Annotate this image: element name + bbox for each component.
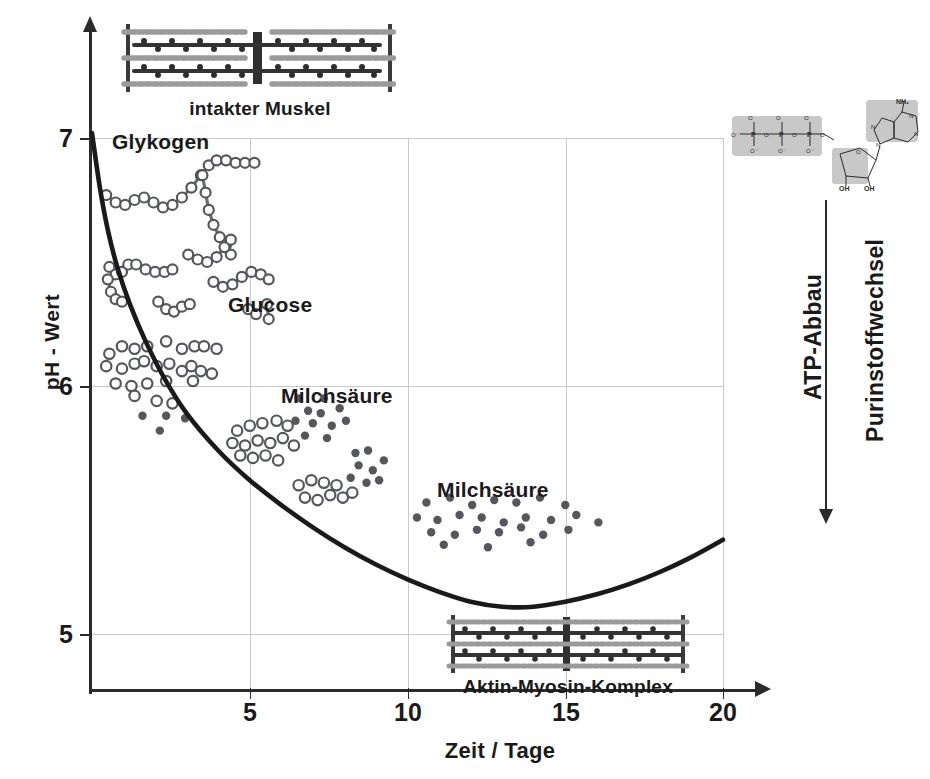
plot-area xyxy=(92,138,724,690)
actin-myosin-complex-diagram xyxy=(437,613,699,675)
glucose-label: Glucose xyxy=(228,293,312,317)
x-tick-label-15: 15 xyxy=(536,698,596,727)
svg-text:N: N xyxy=(871,124,875,130)
y-tick-6 xyxy=(80,386,92,388)
actin-myosin-complex-caption: Aktin-Myosin-Komplex xyxy=(428,676,708,698)
svg-text:N: N xyxy=(876,142,880,148)
svg-text:O: O xyxy=(776,115,781,121)
svg-text:NH₂: NH₂ xyxy=(896,98,909,105)
x-tick-label-10: 10 xyxy=(378,698,438,727)
svg-text:O: O xyxy=(820,132,825,138)
x-axis-arrow xyxy=(755,681,771,697)
svg-text:P: P xyxy=(751,131,756,138)
svg-text:O⁻: O⁻ xyxy=(750,148,758,154)
y-axis-title: pH - Wert xyxy=(40,262,64,422)
svg-text:O⁻: O⁻ xyxy=(806,148,814,154)
svg-text:O: O xyxy=(856,149,861,155)
gridline-day-5 xyxy=(250,138,251,690)
metabolism-arrow-head xyxy=(819,509,833,524)
svg-text:O: O xyxy=(764,132,769,138)
figure-root: intakter Muskel 7 6 5 5 10 15 20 pH - We… xyxy=(0,0,930,779)
gridline-day-10 xyxy=(408,138,409,690)
y-tick-7 xyxy=(80,138,92,140)
svg-text:OH: OH xyxy=(839,185,850,192)
x-axis-title: Zeit / Tage xyxy=(400,738,600,764)
gridline-day-20 xyxy=(723,138,724,690)
svg-text:OH: OH xyxy=(864,185,875,192)
y-axis-arrow xyxy=(83,16,97,32)
svg-text:O: O xyxy=(792,132,797,138)
svg-text:P: P xyxy=(807,131,812,138)
svg-text:O: O xyxy=(748,115,753,121)
y-tick-label-5: 5 xyxy=(33,620,73,649)
svg-text:O⁻: O⁻ xyxy=(778,148,786,154)
svg-text:O⁻: O⁻ xyxy=(731,132,739,138)
y-tick-5 xyxy=(80,634,92,636)
svg-text:N: N xyxy=(909,113,913,119)
purine-metabolism-label: Purinstoffwechsel xyxy=(862,239,889,442)
x-tick-label-5: 5 xyxy=(220,698,280,727)
svg-text:O: O xyxy=(804,115,809,121)
lactic-acid-label-1: Milchsäure xyxy=(281,384,393,408)
svg-text:N: N xyxy=(914,131,918,137)
y-axis-line xyxy=(89,30,92,694)
intact-muscle-caption: intakter Muskel xyxy=(160,98,360,120)
lactic-acid-label-2: Milchsäure xyxy=(437,478,549,502)
atp-breakdown-label: ATP-Abbau xyxy=(800,274,827,400)
x-tick-label-20: 20 xyxy=(693,698,753,727)
glycogen-label: Glykogen xyxy=(112,130,209,154)
gridline-day-15 xyxy=(566,138,567,690)
svg-text:P: P xyxy=(779,131,784,138)
atp-molecule-diagram: O O O O⁻ O⁻ O⁻ O⁻ P P P O O O O OH OH N … xyxy=(728,96,924,194)
y-tick-label-7: 7 xyxy=(33,124,73,153)
intact-muscle-diagram xyxy=(110,22,410,94)
